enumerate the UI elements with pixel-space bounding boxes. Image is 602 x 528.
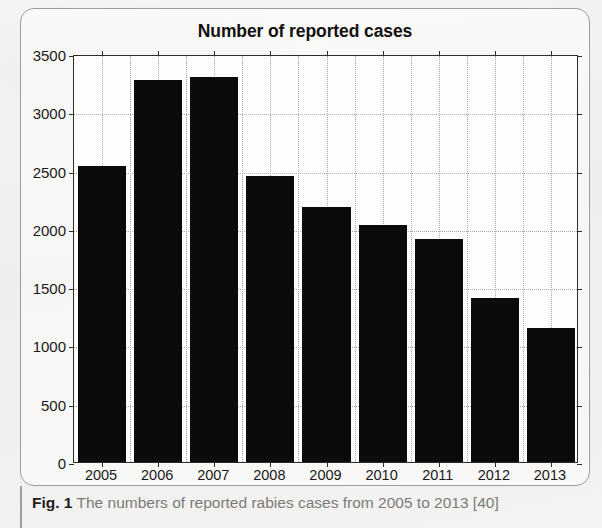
x-axis-tick-mark: [383, 51, 384, 56]
y-axis-tick-label: 3500: [33, 47, 66, 64]
y-axis-tick-mark: [577, 173, 582, 174]
y-axis-tick-labels: 0500100015002000250030003500: [20, 55, 66, 463]
bar-2010: [359, 225, 407, 462]
y-axis-tick-label: 2000: [33, 221, 66, 238]
y-axis-tick-label: 1500: [33, 280, 66, 297]
y-axis-tick-mark: [577, 231, 582, 232]
x-axis-tick-mark: [158, 51, 159, 56]
y-axis-tick-mark: [69, 173, 74, 174]
bar-2013: [527, 328, 575, 462]
x-axis-tick-label: 2005: [85, 467, 117, 483]
bar-2008: [246, 176, 294, 462]
y-axis-tick-mark: [577, 114, 582, 115]
bar-2009: [302, 207, 350, 462]
x-axis-tick-label: 2008: [253, 467, 285, 483]
plot-frame: [73, 55, 578, 463]
gridline-vertical: [130, 56, 131, 462]
x-axis-tick-mark: [102, 51, 103, 56]
x-axis-tick-mark: [270, 51, 271, 56]
x-axis-tick-label: 2010: [365, 467, 397, 483]
x-axis-tick-mark: [551, 51, 552, 56]
x-axis-tick-mark: [214, 51, 215, 56]
y-axis-tick-label: 2500: [33, 163, 66, 180]
chart-title: Number of reported cases: [20, 21, 590, 42]
y-axis-tick-mark: [69, 406, 74, 407]
y-axis-tick-label: 500: [41, 396, 66, 413]
bar-2011: [415, 239, 463, 462]
figure-caption-text: The numbers of reported rabies cases fro…: [77, 494, 499, 511]
x-axis-tick-mark: [327, 51, 328, 56]
gridline-vertical: [298, 56, 299, 462]
gridline-vertical: [186, 56, 187, 462]
gridline-vertical: [467, 56, 468, 462]
figure-caption: Fig. 1 The numbers of reported rabies ca…: [32, 494, 592, 512]
x-axis-tick-mark: [495, 51, 496, 56]
y-axis-tick-mark: [577, 347, 582, 348]
y-axis-tick-mark: [69, 114, 74, 115]
x-axis-tick-label: 2013: [534, 467, 566, 483]
y-axis-tick-mark: [577, 406, 582, 407]
bar-chart: Number of reported cases 050010001500200…: [20, 8, 590, 486]
bar-2006: [134, 80, 182, 462]
bar-2012: [471, 298, 519, 462]
y-axis-tick-mark: [69, 56, 74, 57]
bar-2007: [190, 77, 238, 462]
x-axis-tick-labels: 200520062007200820092010201120122013: [73, 467, 578, 491]
y-axis-tick-label: 1000: [33, 338, 66, 355]
x-axis-tick-mark: [439, 51, 440, 56]
y-axis-tick-mark: [69, 289, 74, 290]
y-axis-tick-label: 3000: [33, 105, 66, 122]
gridline-vertical: [411, 56, 412, 462]
gridline-vertical: [242, 56, 243, 462]
y-axis-tick-mark: [69, 347, 74, 348]
y-axis-tick-mark: [577, 56, 582, 57]
y-axis-tick-mark: [577, 464, 582, 465]
x-axis-tick-label: 2007: [197, 467, 229, 483]
x-axis-tick-label: 2009: [309, 467, 341, 483]
y-axis-tick-label: 0: [58, 455, 66, 472]
y-axis-tick-mark: [69, 231, 74, 232]
y-axis-tick-mark: [69, 464, 74, 465]
gridline-vertical: [523, 56, 524, 462]
bar-2005: [78, 166, 126, 462]
figure-caption-label: Fig. 1: [32, 494, 72, 511]
gridline-vertical: [355, 56, 356, 462]
y-axis-tick-mark: [577, 289, 582, 290]
x-axis-tick-label: 2011: [422, 467, 453, 483]
x-axis-tick-label: 2006: [141, 467, 173, 483]
caption-left-rule: [20, 486, 22, 528]
x-axis-tick-label: 2012: [478, 467, 510, 483]
